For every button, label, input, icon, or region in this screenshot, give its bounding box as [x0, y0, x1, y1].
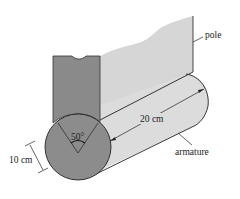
angle-label: 50° [71, 132, 85, 142]
armature-leader-line [178, 133, 192, 145]
armature-end-face [45, 114, 111, 180]
pole-armature-diagram: 50° 20 cm 10 cm pole armature [0, 0, 240, 199]
pole-front-face [53, 56, 100, 123]
length-label: 20 cm [140, 114, 164, 124]
pole-label: pole [205, 30, 221, 40]
armature-label: armature [175, 147, 209, 157]
radius-tick-bottom [38, 168, 48, 173]
pole-leader-line [193, 37, 203, 42]
radius-label: 10 cm [9, 155, 33, 165]
